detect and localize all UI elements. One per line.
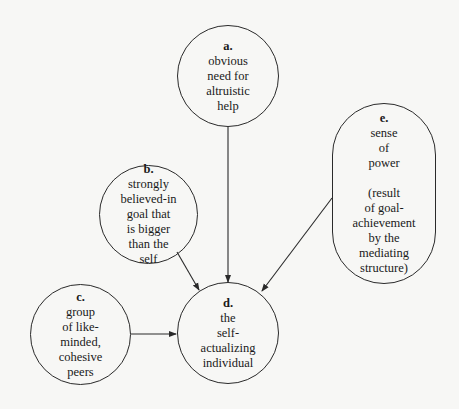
node-e-subtext: (result of goal- achievement by the medi…: [352, 186, 415, 276]
node-b-goal: b. strongly believed-in goal that is big…: [99, 165, 198, 264]
edge-b-to-d: [177, 252, 199, 290]
node-c-peer-group: c. group of like- minded, cohesive peers: [30, 284, 131, 385]
edge-e-to-d: [262, 198, 332, 291]
node-a-letter: a.: [223, 39, 232, 54]
node-c-letter: c.: [76, 290, 85, 305]
node-a-altruistic-need: a. obvious need for altruistic help: [177, 25, 279, 127]
node-b-letter: b.: [143, 162, 153, 177]
node-d-text: the self- actualizing individual: [201, 311, 256, 371]
node-d-self-actualizing-individual: d. the self- actualizing individual: [177, 282, 279, 384]
node-c-text: group of like- minded, cohesive peers: [59, 305, 103, 380]
node-d-letter: d.: [223, 296, 233, 311]
node-b-text: strongly believed-in goal that is bigger…: [120, 177, 176, 267]
node-e-sense-of-power: e. sense of power (result of goal- achie…: [332, 103, 436, 284]
node-a-text: obvious need for altruistic help: [206, 54, 250, 114]
node-e-text: sense of power: [368, 126, 399, 171]
node-e-letter: e.: [380, 111, 389, 126]
